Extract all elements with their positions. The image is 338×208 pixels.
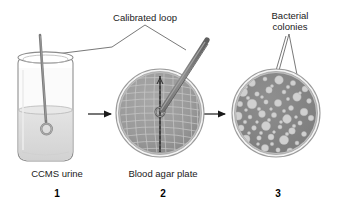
figure-canvas: Calibrated loop Bacterial colonies CCMS … xyxy=(0,0,338,208)
step-number-2: 2 xyxy=(143,188,183,199)
step-caption-ccms-urine: CCMS urine xyxy=(12,168,102,179)
streaked-agar-plate xyxy=(116,69,204,157)
step-number-3: 3 xyxy=(258,188,298,199)
annotation-bacterial-colonies-line1: Bacterial xyxy=(272,10,309,21)
annotation-calibrated-loop: Calibrated loop xyxy=(103,12,187,23)
colony-plate xyxy=(232,69,320,157)
annotation-bacterial-colonies-line2: colonies xyxy=(273,21,308,32)
annotation-bacterial-colonies: Bacterial colonies xyxy=(261,10,319,32)
leader-lines-calibrated-loop xyxy=(40,25,186,56)
step-caption-blood-agar-plate: Blood agar plate xyxy=(110,168,216,179)
step-number-1: 1 xyxy=(37,188,77,199)
